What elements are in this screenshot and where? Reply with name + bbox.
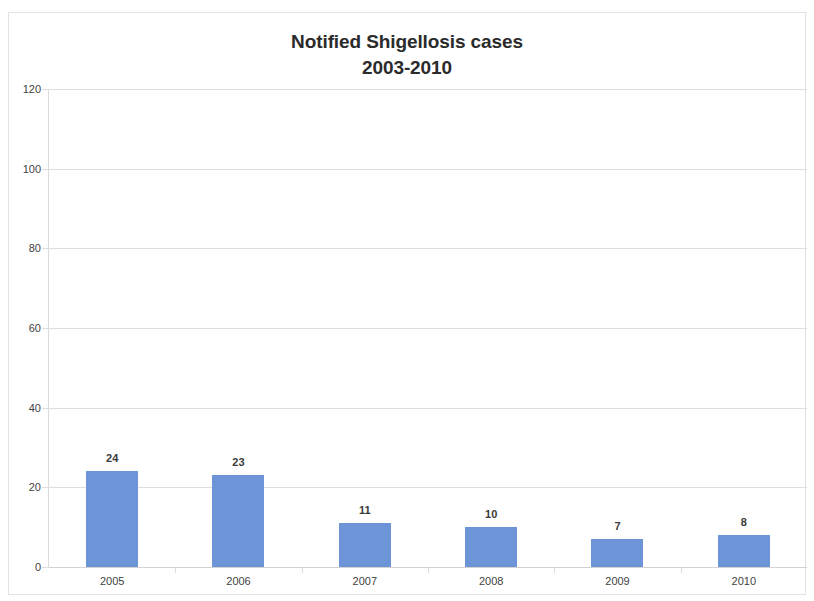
y-axis-tick-label: 0 xyxy=(1,562,41,573)
y-axis-tick-label: 100 xyxy=(1,163,41,174)
bar-group: 7 xyxy=(554,89,680,567)
bar-data-label: 23 xyxy=(232,457,244,468)
bar[interactable] xyxy=(591,539,643,567)
bar-group: 10 xyxy=(428,89,554,567)
x-axis-tick-label: 2007 xyxy=(353,575,377,588)
y-axis-tick-mark xyxy=(42,328,48,329)
bar-group: 24 xyxy=(49,89,175,567)
x-axis-tick-mark xyxy=(681,567,682,573)
x-axis-tick-label: 2005 xyxy=(100,575,124,588)
plot-area: 2423111078 xyxy=(49,89,807,567)
bar-data-label: 24 xyxy=(106,453,118,464)
y-axis-tick-label: 80 xyxy=(1,243,41,254)
chart-title-line-1: Notified Shigellosis cases xyxy=(9,29,805,55)
bar-data-label: 10 xyxy=(485,509,497,520)
x-axis-tick-label: 2006 xyxy=(226,575,250,588)
y-axis-tick-mark xyxy=(42,487,48,488)
chart-title: Notified Shigellosis cases 2003-2010 xyxy=(9,29,805,81)
y-axis-tick-mark xyxy=(42,89,48,90)
y-axis-tick-mark xyxy=(42,567,48,568)
chart-frame: Notified Shigellosis cases 2003-2010 020… xyxy=(8,12,806,595)
x-axis-tick-mark xyxy=(175,567,176,573)
bar[interactable] xyxy=(718,535,770,567)
x-axis-tick-label: 2008 xyxy=(479,575,503,588)
x-axis-tick-mark xyxy=(554,567,555,573)
y-axis-tick-label: 60 xyxy=(1,323,41,334)
bar-group: 23 xyxy=(175,89,301,567)
x-axis-tick-label: 2010 xyxy=(732,575,756,588)
x-axis-tick-mark xyxy=(428,567,429,573)
y-axis-tick-label: 40 xyxy=(1,402,41,413)
bar[interactable] xyxy=(339,523,391,567)
y-axis-tick-mark xyxy=(42,169,48,170)
bar-data-label: 7 xyxy=(614,521,620,532)
bar-data-label: 11 xyxy=(359,505,371,516)
bar[interactable] xyxy=(212,475,264,567)
x-axis-tick-mark xyxy=(302,567,303,573)
bar-group: 8 xyxy=(681,89,807,567)
x-axis-tick-labels: 200520062007200820092010 xyxy=(49,575,807,595)
chart-title-line-2: 2003-2010 xyxy=(9,55,805,81)
y-axis-tick-labels: 020406080100120 xyxy=(1,89,41,567)
y-axis-tick-mark xyxy=(42,248,48,249)
bar[interactable] xyxy=(465,527,517,567)
x-axis-tick-label: 2009 xyxy=(605,575,629,588)
y-axis-tick-mark xyxy=(42,408,48,409)
y-axis-tick-label: 20 xyxy=(1,482,41,493)
y-axis-tick-label: 120 xyxy=(1,84,41,95)
bar[interactable] xyxy=(86,471,138,567)
bar-group: 11 xyxy=(302,89,428,567)
bar-data-label: 8 xyxy=(741,517,747,528)
